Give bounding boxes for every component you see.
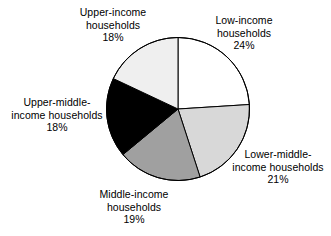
pie-label-lower-middle-income-line1: Lower-middle-: [226, 148, 330, 161]
pie-label-upper-middle-income-percent: 18%: [2, 121, 112, 134]
pie-label-low-income-line1: Low-income: [198, 14, 290, 27]
pie-label-upper-income-percent: 18%: [61, 31, 165, 44]
pie-label-low-income-line2: households: [198, 27, 290, 40]
pie-label-middle-income-percent: 19%: [80, 213, 188, 226]
pie-label-upper-income: Upper-income households 18%: [61, 6, 165, 44]
pie-label-low-income: Low-income households 24%: [198, 14, 290, 52]
pie-label-lower-middle-income-percent: 21%: [226, 173, 330, 186]
pie-label-lower-middle-income-line2: income households: [226, 161, 330, 174]
pie-label-upper-middle-income-line1: Upper-middle-: [2, 96, 112, 109]
pie-label-upper-middle-income: Upper-middle- income households 18%: [2, 96, 112, 134]
pie-label-middle-income-line1: Middle-income: [80, 188, 188, 201]
pie-label-upper-middle-income-line2: income households: [2, 109, 112, 122]
pie-label-middle-income-line2: households: [80, 201, 188, 214]
pie-label-upper-income-line2: households: [61, 19, 165, 32]
pie-label-low-income-percent: 24%: [198, 39, 290, 52]
pie-label-upper-income-line1: Upper-income: [61, 6, 165, 19]
pie-label-middle-income: Middle-income households 19%: [80, 188, 188, 226]
pie-label-lower-middle-income: Lower-middle- income households 21%: [226, 148, 330, 186]
pie-chart-figure: Upper-income households 18% Low-income h…: [0, 0, 331, 236]
